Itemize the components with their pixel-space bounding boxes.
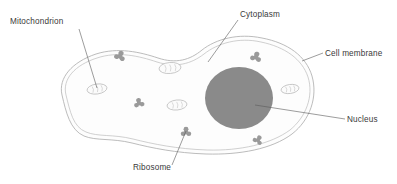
- label-mitochondrion: Mitochondrion: [10, 17, 64, 26]
- cell-diagram-canvas: Mitochondrion Cytoplasm Cell membrane Nu…: [0, 0, 397, 184]
- ribosome-lobe: [184, 130, 189, 135]
- leader-line-cell-membrane: [302, 53, 323, 61]
- nucleus-organelle: [205, 67, 273, 129]
- cell-diagram-svg: Mitochondrion Cytoplasm Cell membrane Nu…: [0, 0, 397, 184]
- label-cytoplasm: Cytoplasm: [240, 10, 280, 19]
- cell-membrane-outer-line: [61, 36, 314, 154]
- label-nucleus: Nucleus: [347, 115, 378, 124]
- label-ribosome: Ribosome: [133, 163, 171, 172]
- label-cell-membrane: Cell membrane: [325, 49, 383, 58]
- cell-membrane-outline: [61, 36, 314, 154]
